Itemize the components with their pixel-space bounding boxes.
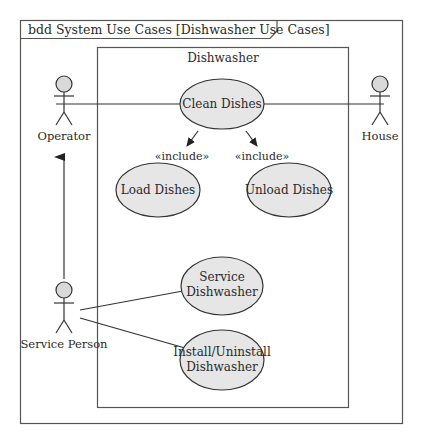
actor-head-icon [56,76,72,92]
include-arrow-load [187,131,198,146]
actor-service-person[interactable]: Service Person [20,282,108,351]
system-boundary-label: Dishwasher [187,51,259,65]
actor-label: House [361,129,398,143]
include-label-load: «include» [155,150,209,163]
actor-label: Operator [38,129,91,143]
use-case-label: Load Dishes [121,183,195,197]
association-service-person-service-dishwasher [80,291,183,310]
actor-head-icon [372,76,388,92]
use-case-label: Clean Dishes [182,97,261,111]
actor-right-leg [380,112,388,125]
use-case-unload-dishes[interactable]: Unload Dishes [245,163,333,217]
use-case-label-line2: Dishwasher [186,285,258,299]
use-case-label-line1: Service [199,270,245,284]
actor-left-leg [372,112,380,125]
use-case-clean-dishes[interactable]: Clean Dishes [180,79,264,129]
actor-house[interactable]: House [361,76,398,143]
frame-title: bdd System Use Cases [Dishwasher Use Cas… [28,22,330,37]
actor-right-leg [64,112,72,125]
actor-right-leg [64,320,72,333]
use-case-load-dishes[interactable]: Load Dishes [116,163,200,217]
actor-label: Service Person [20,337,108,351]
use-case-label: Unload Dishes [245,183,333,197]
use-case-install-uninstall[interactable]: Install/Uninstall Dishwasher [173,330,271,390]
actor-head-icon [56,282,72,298]
use-case-diagram: bdd System Use Cases [Dishwasher Use Cas… [0,0,421,442]
actor-operator[interactable]: Operator [38,76,91,143]
actor-left-leg [56,112,64,125]
include-arrow-unload [246,131,257,146]
actor-left-leg [56,320,64,333]
use-case-label-line2: Dishwasher [186,360,258,374]
use-case-label-line1: Install/Uninstall [173,345,271,359]
use-case-service-dishwasher[interactable]: Service Dishwasher [181,257,263,315]
include-label-unload: «include» [235,150,289,163]
